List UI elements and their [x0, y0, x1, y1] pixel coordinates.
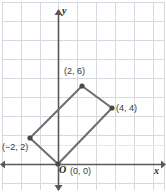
- vertex-dot-left: [27, 135, 32, 140]
- axes: [2, 10, 161, 190]
- vertex-dot-top: [79, 83, 84, 88]
- coordinate-plane-svg: [0, 0, 166, 192]
- vertex-label-left: (−2, 2): [2, 142, 28, 152]
- vertex-dot-right: [109, 105, 114, 110]
- grid-lines: [2, 2, 165, 190]
- vertex-label-origin: (0, 0): [70, 166, 91, 176]
- x-axis-arrow-right: [161, 161, 166, 169]
- vertex-label-right: (4, 4): [116, 103, 137, 113]
- x-axis-label: x: [154, 166, 159, 176]
- y-axis-arrow-down: [55, 185, 63, 191]
- vertex-label-top: (2, 6): [64, 66, 85, 76]
- y-axis-label: y: [62, 6, 66, 16]
- origin-marker-label: O: [59, 165, 66, 175]
- coordinate-plane-figure: (2, 6) (4, 4) (−2, 2) (0, 0) O y x: [0, 0, 166, 192]
